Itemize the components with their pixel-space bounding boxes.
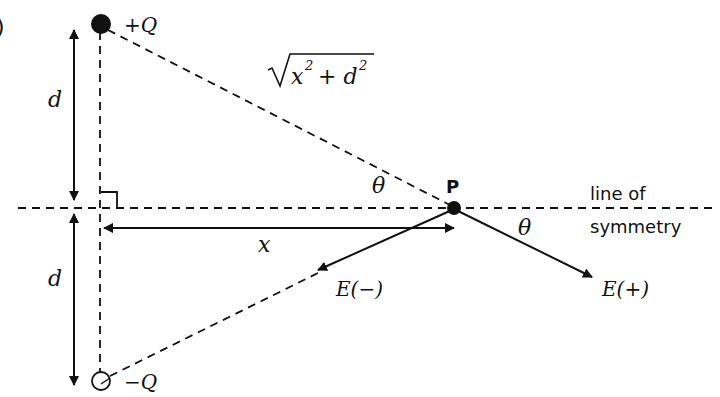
symmetry-label-line1: line of [590,183,646,204]
dipole-field-diagram: ) +Q −Q d d x x 2 + d 2 θ θ P E(−) E(+) [0,0,720,397]
negative-charge-label: −Q [124,370,157,394]
positive-charge-label: +Q [124,13,157,37]
negative-charge [92,372,110,390]
hypotenuse-label: x 2 + d 2 [268,54,374,89]
point-p [447,201,461,215]
hypotenuse-upper-line [108,30,450,205]
positive-charge [91,14,111,34]
field-negative-label: E(−) [335,277,383,301]
left-edge-partial-glyph: ) [0,14,5,39]
field-positive-label: E(+) [601,277,649,301]
point-p-label: P [446,176,459,197]
symmetry-label-line2: symmetry [590,216,682,237]
x-label: x [258,232,271,257]
field-negative-vector [318,210,452,270]
hypotenuse-x-exp: 2 [304,58,313,73]
hypotenuse-d-exp: 2 [358,58,367,73]
hypotenuse-plus-d: + d [318,64,358,89]
hypotenuse-x: x [291,64,304,89]
upper-d-label: d [48,87,62,112]
angle-upper-label: θ [372,173,385,198]
lower-d-label: d [48,266,62,291]
right-angle-marker [101,192,117,208]
angle-lower-label: θ [518,215,531,240]
hypotenuse-lower-line [110,273,318,376]
